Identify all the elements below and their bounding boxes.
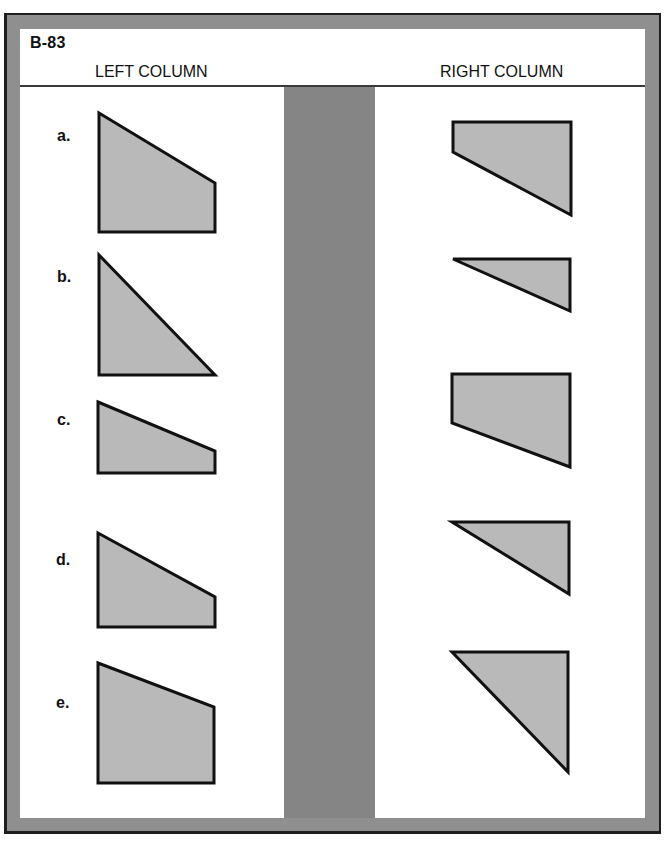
left-shape-e[interactable] xyxy=(98,663,214,783)
left-shape-d[interactable] xyxy=(98,533,215,627)
shapes-canvas xyxy=(0,0,665,842)
left-shape-a[interactable] xyxy=(99,113,215,232)
right-shape-3[interactable] xyxy=(452,374,570,467)
right-shape-4[interactable] xyxy=(452,522,569,594)
left-shape-b[interactable] xyxy=(99,255,215,375)
right-shape-5[interactable] xyxy=(452,652,568,772)
left-shape-c[interactable] xyxy=(98,402,215,473)
right-shape-2[interactable] xyxy=(453,259,570,311)
right-shape-1[interactable] xyxy=(453,122,571,215)
